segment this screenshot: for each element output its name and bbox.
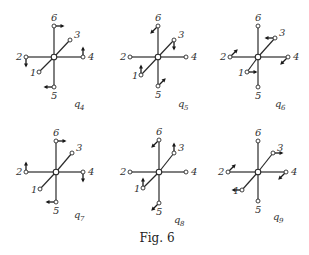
node-label-5: 5 [155,89,161,100]
member-1 [242,172,258,190]
node-4 [184,55,188,59]
member-1 [141,57,158,75]
node-label-3: 3 [74,29,80,40]
member-3 [158,40,174,57]
node-label-3: 3 [76,142,82,153]
node-label-5: 5 [255,204,261,215]
node-label-3: 3 [178,142,184,153]
node-label-2: 2 [219,51,226,62]
node-5 [52,85,56,89]
node-label-2: 2 [119,166,126,177]
member-3 [258,153,273,172]
member-3 [54,40,70,57]
node-3 [273,36,277,40]
node-label-4: 4 [290,166,297,177]
node-label-1: 1 [30,67,36,78]
panel-label-subscript: 9 [279,217,284,225]
node-label-4: 4 [87,166,94,177]
node-label-1: 1 [31,184,37,195]
node-6 [52,24,56,28]
node-3 [172,38,176,42]
node-3 [172,151,176,155]
center-hinge [255,54,261,60]
node-label-1: 1 [134,183,140,194]
node-label-4: 4 [190,166,197,177]
panel-label-subscript: 6 [281,104,286,112]
node-5 [156,84,160,88]
node-1 [240,188,244,192]
panel-label-subscript: 5 [184,104,189,112]
panel-q6: 123456q6 [219,12,299,112]
panel-label-subscript: 7 [80,215,85,223]
node-5 [256,199,260,203]
node-label-6: 6 [53,127,60,138]
node-3 [271,151,275,155]
node-4 [284,170,288,174]
node-4 [81,170,85,174]
panel-label-subscript: 8 [180,220,185,228]
node-6 [156,24,160,28]
center-hinge [53,169,59,175]
member-1 [143,172,159,188]
node-label-4: 4 [87,51,94,62]
node-label-2: 2 [15,51,22,62]
node-label-3: 3 [277,142,283,153]
center-hinge [155,54,161,60]
node-label-6: 6 [255,12,262,23]
node-label-1: 1 [132,70,138,81]
node-1 [139,73,143,77]
node-label-2: 2 [217,166,224,177]
center-hinge [255,169,261,175]
node-label-2: 2 [119,51,126,62]
node-4 [286,55,290,59]
member-3 [258,38,275,57]
node-2 [226,170,230,174]
panel-q4: 123456q4 [15,12,94,112]
panel-q9: 123456q9 [217,127,297,225]
member-3 [159,153,174,172]
panel-q7: 123456q7 [15,127,94,223]
node-5 [256,85,260,89]
node-4 [184,170,188,174]
node-4 [81,55,85,59]
node-label-3: 3 [279,27,285,38]
node-5 [157,201,161,205]
node-2 [128,170,132,174]
node-label-6: 6 [155,12,162,23]
node-1 [141,186,145,190]
node-2 [228,55,232,59]
node-1 [37,70,41,74]
node-3 [70,151,74,155]
node-label-6: 6 [51,12,58,23]
node-1 [38,187,42,191]
node-2 [24,55,28,59]
node-6 [54,139,58,143]
figure-6-diagram: 123456q4123456q5123456q6123456q7123456q8… [0,0,309,255]
node-label-2: 2 [15,166,22,177]
node-label-3: 3 [178,29,184,40]
member-3 [56,153,72,172]
node-6 [256,24,260,28]
node-label-6: 6 [156,126,163,137]
member-1 [40,172,56,189]
node-2 [128,55,132,59]
node-label-4: 4 [190,51,197,62]
node-label-5: 5 [255,90,261,101]
node-label-5: 5 [156,206,162,217]
node-label-4: 4 [292,51,299,62]
center-hinge [51,54,57,60]
node-label-1: 1 [238,67,244,78]
node-3 [68,38,72,42]
node-label-5: 5 [51,90,57,101]
node-5 [54,200,58,204]
node-1 [245,70,249,74]
node-6 [157,138,161,142]
panel-label-subscript: 4 [79,104,84,112]
node-6 [256,139,260,143]
node-label-5: 5 [53,205,59,216]
node-label-1: 1 [233,185,239,196]
figure-caption: Fig. 6 [139,231,174,245]
panel-q5: 123456q5 [119,12,197,112]
panel-q8: 123456q8 [119,126,197,228]
center-hinge [156,169,162,175]
